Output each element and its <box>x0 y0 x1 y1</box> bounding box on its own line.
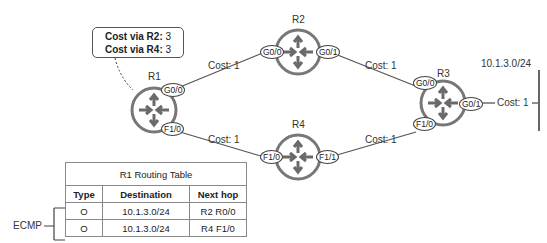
subnet-label: 10.1.3.0/24 <box>481 59 531 69</box>
row-type: O <box>66 203 103 220</box>
routing-table: R1 Routing Table Type Destination Next h… <box>65 162 247 237</box>
r3-f10-interface: F1/0 <box>413 117 436 131</box>
callout-r2-value: 3 <box>166 31 172 42</box>
row-next-hop: R2 R0/0 <box>190 203 247 220</box>
row-next-hop: R4 F1/0 <box>190 220 247 237</box>
cost-r1-r2: Cost: 1 <box>208 61 240 71</box>
header-type: Type <box>66 186 103 203</box>
table-row: O 10.1.3.0/24 R2 R0/0 <box>66 203 247 220</box>
r1-f10-interface: F1/0 <box>161 122 184 136</box>
row-destination: 10.1.3.0/24 <box>103 203 190 220</box>
ecmp-bracket <box>44 208 65 240</box>
cost-r1-r4: Cost: 1 <box>208 135 240 145</box>
header-next-hop: Next hop <box>190 186 247 203</box>
row-type: O <box>66 220 103 237</box>
cost-callout: Cost via R2: 3 Cost via R4: 3 <box>92 27 184 58</box>
cost-r3-lan: Cost: 1 <box>497 98 529 108</box>
r3-g01-interface: G0/1 <box>459 97 483 111</box>
routing-table-title: R1 Routing Table <box>66 163 247 186</box>
router-r4-label: R4 <box>292 120 305 130</box>
r4-f11-interface: F1/1 <box>316 150 339 164</box>
router-r2-label: R2 <box>292 15 305 25</box>
r2-g00-interface: G0/0 <box>260 45 284 59</box>
ecmp-label: ECMP <box>13 221 42 231</box>
callout-r4-value: 3 <box>166 44 172 55</box>
cost-r4-r3: Cost: 1 <box>365 135 397 145</box>
table-row: O 10.1.3.0/24 R4 F1/0 <box>66 220 247 237</box>
cost-r2-r3: Cost: 1 <box>365 61 397 71</box>
r2-g01-interface: G0/1 <box>316 45 340 59</box>
r4-f10-interface: F1/0 <box>260 150 283 164</box>
r3-g00-interface: G0/0 <box>413 76 437 90</box>
row-destination: 10.1.3.0/24 <box>103 220 190 237</box>
r1-g00-interface: G0/0 <box>161 83 185 97</box>
header-destination: Destination <box>103 186 190 203</box>
callout-connector <box>115 58 133 90</box>
router-r1-label: R1 <box>148 72 161 82</box>
callout-r2-label: Cost via R2: <box>105 31 163 42</box>
callout-r4-label: Cost via R4: <box>105 44 163 55</box>
router-r3-label: R3 <box>437 69 450 79</box>
